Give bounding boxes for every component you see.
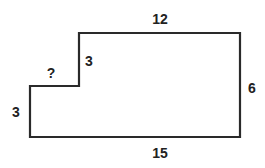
bottom-edge-label: 15 <box>152 145 168 161</box>
right-edge-label: 6 <box>248 80 256 96</box>
step-vertical-label: 3 <box>85 53 93 69</box>
unknown-step-length-label: ? <box>47 65 56 81</box>
left-edge-label: 3 <box>12 104 20 120</box>
l-shaped-outline <box>30 33 240 137</box>
composite-shape-diagram: 12 15 6 3 3 ? <box>0 0 265 168</box>
top-edge-label: 12 <box>152 11 168 27</box>
